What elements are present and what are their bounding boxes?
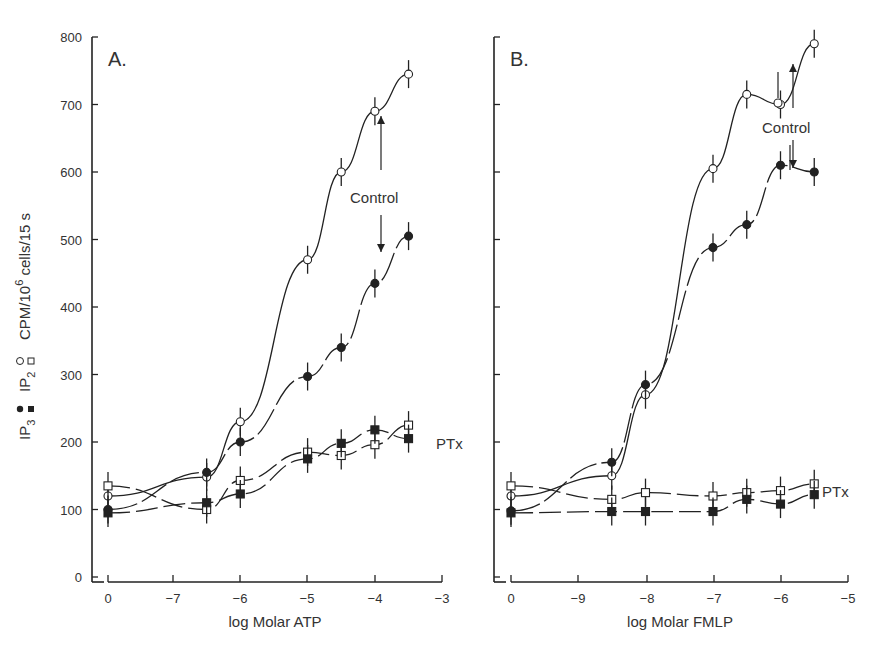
control-annotation-a: Control [350, 189, 398, 206]
data-point [608, 508, 616, 516]
data-point [236, 418, 244, 426]
data-point [709, 244, 717, 252]
ptx-annotation-a: PTx [436, 435, 463, 452]
data-point [743, 495, 751, 503]
data-point [304, 455, 312, 463]
series-line [108, 430, 409, 513]
data-point [810, 168, 818, 176]
data-point [777, 161, 785, 169]
x-tick-label: −4 [368, 591, 383, 606]
data-point [304, 256, 312, 264]
data-point [371, 107, 379, 115]
x-tick-label: −9 [571, 591, 586, 606]
data-point [236, 490, 244, 498]
series-line [108, 236, 409, 509]
data-point [777, 500, 785, 508]
y-tick-label: 100 [60, 503, 82, 518]
data-point [203, 468, 211, 476]
series-line [511, 484, 814, 500]
x-tick-label: 0 [104, 591, 111, 606]
y-tick-label: 0 [75, 570, 82, 585]
y-tick-label: 200 [60, 435, 82, 450]
y-tick-label: 500 [60, 233, 82, 248]
data-point [236, 438, 244, 446]
data-point [337, 439, 345, 447]
data-point [507, 509, 515, 517]
data-point [608, 458, 616, 466]
x-axis-title-a: log Molar ATP [228, 613, 321, 630]
x-tick-label: −6 [774, 591, 789, 606]
data-point [371, 279, 379, 287]
data-point [743, 221, 751, 229]
data-point [371, 426, 379, 434]
x-tick-label: −8 [640, 591, 655, 606]
y-tick-label: 600 [60, 165, 82, 180]
data-point [405, 232, 413, 240]
data-point [405, 435, 413, 443]
svg-text:CPM/106 cells/15 s: CPM/106 cells/15 s [13, 213, 33, 340]
data-point [743, 90, 751, 98]
x-tick-label: −7 [166, 591, 181, 606]
data-point [337, 168, 345, 176]
data-point [810, 491, 818, 499]
svg-text:IP3: IP3 [16, 420, 37, 440]
y-tick-label: 700 [60, 98, 82, 113]
data-point [104, 509, 112, 517]
data-point [507, 482, 515, 490]
series-line [511, 495, 814, 513]
x-tick-label: −7 [707, 591, 722, 606]
data-point [104, 482, 112, 490]
x-tick-label: −5 [300, 591, 315, 606]
data-point [642, 489, 650, 497]
y-tick-label: 800 [60, 30, 82, 45]
data-point [304, 373, 312, 381]
panel-a-label: A. [108, 48, 127, 70]
data-point [709, 165, 717, 173]
series-line [108, 74, 409, 496]
y-tick-label: 300 [60, 368, 82, 383]
chart-figure: 01002003004005006007008000−7−6−5−4−30−9−… [0, 0, 875, 650]
y-axis-title: IP3 IP2 CPM/106 cells/15 s [13, 213, 37, 440]
x-axis-title-b: log Molar FMLP [627, 613, 733, 630]
data-point [642, 381, 650, 389]
x-tick-label: −5 [841, 591, 856, 606]
x-tick-label: −3 [435, 591, 450, 606]
data-point [810, 40, 818, 48]
data-point [405, 70, 413, 78]
series-line [108, 425, 409, 509]
series-line [511, 165, 814, 511]
ptx-annotation-b: PTx [822, 483, 849, 500]
x-tick-label: 0 [507, 591, 514, 606]
x-tick-label: −6 [233, 591, 248, 606]
data-point [642, 508, 650, 516]
data-point [709, 508, 717, 516]
y-tick-label: 400 [60, 300, 82, 315]
data-point [337, 344, 345, 352]
series-line [511, 44, 814, 496]
control-annotation-b: Control [762, 119, 810, 136]
data-point [203, 499, 211, 507]
panel-b-label: B. [510, 48, 529, 70]
svg-text:IP2: IP2 [16, 372, 37, 392]
